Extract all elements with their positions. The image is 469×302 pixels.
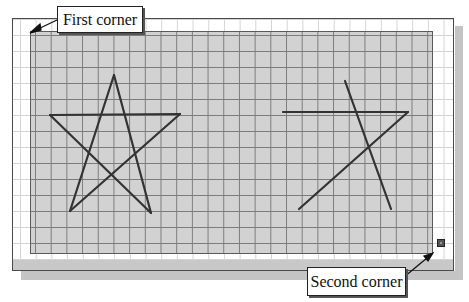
drawing-geometry [0,0,469,302]
partial-star-diagonal [345,81,391,209]
partial-star-diagonal-2 [299,112,408,209]
first-corner-arrowhead-icon [30,24,41,33]
second-corner-callout: Second corner [307,267,406,296]
full-star[interactable] [50,75,180,213]
second-corner-label: Second corner [311,274,403,290]
first-corner-label: First corner [63,12,137,28]
crosshair-cursor-icon [437,239,445,247]
partial-star[interactable] [283,81,408,209]
star-line-top [50,114,180,115]
star-line-bottom-right-to-left [50,115,151,213]
second-corner-arrow-line [404,258,427,277]
first-corner-callout: First corner [57,6,143,33]
